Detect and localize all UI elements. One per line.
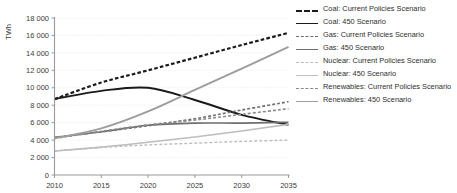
series-line-1 [55, 87, 289, 125]
series-line-0 [55, 33, 289, 99]
y-tick-label: 2 000 [30, 153, 49, 162]
legend-label: Gas: Current Policies Scenario [323, 30, 424, 39]
legend-item[interactable]: Coal: 450 Scenario [296, 17, 457, 27]
legend-label: Renewables: Current Policies Scenario [323, 82, 451, 91]
y-tick-label: 14 000 [26, 49, 49, 58]
legend-item[interactable]: Gas: 450 Scenario [296, 43, 457, 53]
legend-swatch-icon [296, 44, 318, 53]
x-tick-label: 2015 [93, 181, 110, 190]
x-tick-label: 2035 [280, 181, 297, 190]
legend-item[interactable]: Nuclear: Current Policies Scenario [296, 56, 457, 66]
legend-swatch-icon [296, 57, 318, 66]
legend-item[interactable]: Renewables: Current Policies Scenario [296, 82, 457, 92]
chart-legend: Coal: Current Policies ScenarioCoal: 450… [296, 4, 457, 108]
legend-swatch-icon [296, 70, 318, 79]
legend-item[interactable]: Nuclear: 450 Scenario [296, 69, 457, 79]
legend-item[interactable]: Coal: Current Policies Scenario [296, 4, 457, 14]
legend-swatch-icon [296, 83, 318, 92]
legend-label: Nuclear: Current Policies Scenario [323, 56, 436, 65]
legend-label: Renewables: 450 Scenario [323, 95, 411, 104]
y-tick-label: 8 000 [30, 101, 49, 110]
y-tick-label: 18 000 [26, 14, 49, 23]
y-tick-label: 16 000 [26, 31, 49, 40]
x-tick-label: 2020 [140, 181, 157, 190]
legend-label: Nuclear: 450 Scenario [323, 69, 396, 78]
y-tick-label: 12 000 [26, 66, 49, 75]
x-tick-label: 2025 [187, 181, 204, 190]
legend-item[interactable]: Gas: Current Policies Scenario [296, 30, 457, 40]
legend-label: Coal: Current Policies Scenario [323, 4, 426, 13]
legend-swatch-icon [296, 5, 318, 14]
legend-item[interactable]: Renewables: 450 Scenario [296, 95, 457, 105]
y-tick-label: 4 000 [30, 136, 49, 145]
chart-container: 02 0004 0006 0008 00010 00012 00014 0001… [0, 0, 457, 193]
x-tick-label: 2010 [46, 181, 63, 190]
x-tick-label: 2030 [233, 181, 250, 190]
legend-swatch-icon [296, 96, 318, 105]
legend-label: Coal: 450 Scenario [323, 17, 386, 26]
legend-swatch-icon [296, 31, 318, 40]
y-tick-label: 6 000 [30, 118, 49, 127]
legend-label: Gas: 450 Scenario [323, 43, 384, 52]
y-axis-title: TWh [4, 24, 13, 40]
legend-swatch-icon [296, 18, 318, 27]
series-line-5 [55, 124, 289, 151]
y-tick-label: 0 [45, 171, 49, 180]
series-line-4 [55, 140, 289, 151]
y-tick-label: 10 000 [26, 83, 49, 92]
